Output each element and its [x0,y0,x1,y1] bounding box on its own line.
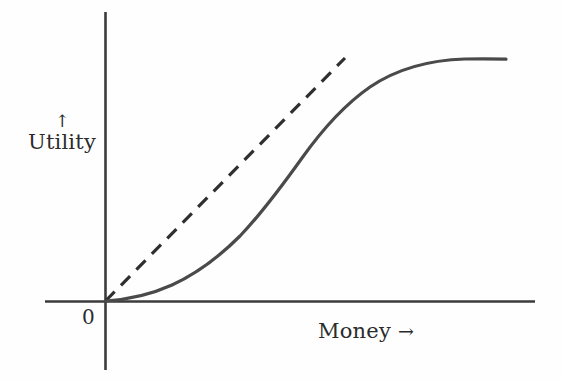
utility-curve-path [106,59,507,301]
utility-money-figure: ↑ Utility Money→ 0 [0,0,562,380]
y-axis-label-text: Utility [22,131,102,153]
x-axis-label: Money→ [318,320,414,342]
origin-label: 0 [82,307,95,328]
right-arrow-icon: → [398,320,414,342]
x-axis-label-text: Money [318,319,391,343]
y-axis-label: ↑ Utility [22,112,102,153]
linear-reference-dashed-line [106,58,346,301]
up-arrow-icon: ↑ [22,112,102,131]
